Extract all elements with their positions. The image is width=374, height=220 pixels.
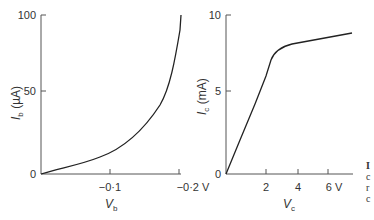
right-ytick-10: 10 [209,9,221,21]
left-xtick-0.2: −0·2 V [177,181,210,193]
right-xtick-2: 2 [263,181,269,193]
right-chart: 10 5 0 2 4 6 V Vc Ic (mA) [195,9,353,213]
caption-fragment-4: c [366,193,370,204]
left-ytick-100: 100 [18,9,36,21]
caption-fragment-2: c [366,171,370,182]
caption-fragment-1: I [366,160,370,171]
figure-canvas: 100 50 0 −0·1 −0·2 V Vb Ib (µA) 10 5 0 2… [0,0,374,220]
right-xtick-6: 6 V [326,181,343,193]
right-x-label: Vc [283,197,295,213]
left-ytick-0: 0 [30,168,36,180]
left-curve [41,15,181,174]
left-x-label: Vb [105,197,118,213]
right-y-label: Ic (mA) [195,78,211,115]
right-ytick-0: 0 [215,168,221,180]
right-curve [226,33,352,174]
left-chart: 100 50 0 −0·1 −0·2 V Vb Ib (µA) [9,9,210,213]
left-xtick-0.1: −0·1 [99,181,121,193]
caption-fragment-3: r [366,182,369,193]
right-ytick-5: 5 [215,85,221,97]
left-y-label: Ib (µA) [9,86,25,120]
left-ytick-50: 50 [24,85,36,97]
right-xtick-4: 4 [295,181,301,193]
